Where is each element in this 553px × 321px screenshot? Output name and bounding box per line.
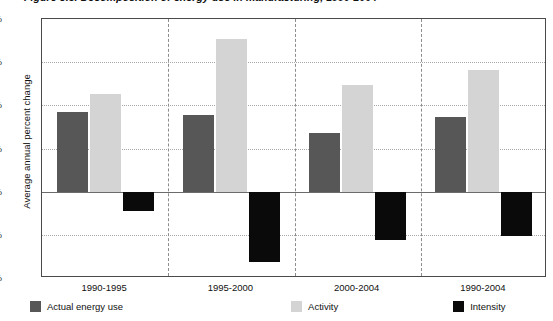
legend-item: Actual energy use [30,301,123,312]
y-tick-label: 1% [0,142,2,153]
bar [501,192,532,236]
bar [57,112,88,192]
legend-swatch [453,301,464,312]
plot-inner [42,19,545,276]
legend-swatch [291,301,302,312]
gridline-0% [42,192,545,193]
y-tick-label: -1% [0,228,2,239]
y-tick-label: 2% [0,99,2,110]
legend-item: Activity [291,301,338,312]
y-tick-label: -2% [0,272,2,283]
y-axis-title: Average annual percent change [21,32,32,252]
gridline--1% [42,235,545,236]
legend-item: Intensity [453,301,505,312]
group-separator [168,19,169,276]
bar [123,192,154,211]
chart-title: Figure 3.5. Decomposition of energy use … [24,0,377,3]
bar [342,85,373,192]
bar [249,192,280,262]
gridline-3% [42,62,545,63]
legend-label: Intensity [470,301,505,312]
group-separator [295,19,296,276]
bar [309,133,340,191]
x-tick-label: 1995-2000 [208,282,253,293]
legend-label: Activity [308,301,338,312]
legend-swatch [30,301,41,312]
y-tick-label: 3% [0,56,2,67]
y-tick-label: 4% [0,13,2,24]
chart-legend: Actual energy useActivityIntensity [30,301,506,312]
bar [375,192,406,241]
bar [468,70,499,192]
plot-area [41,18,546,277]
x-tick-label: 2000-2004 [334,282,379,293]
bar [183,115,214,192]
bar [435,117,466,192]
x-tick-label: 1990-1995 [81,282,126,293]
figure-container: Figure 3.5. Decomposition of energy use … [0,0,553,321]
bar [90,94,121,192]
group-separator [421,19,422,276]
bar [216,39,247,191]
legend-label: Actual energy use [47,301,123,312]
y-tick-label: 0% [0,185,2,196]
x-tick-label: 1990-2004 [460,282,505,293]
